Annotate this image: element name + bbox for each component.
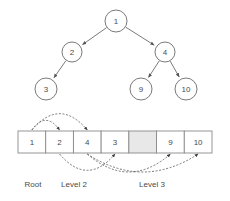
tree-node-2: 2 (62, 42, 82, 62)
captions-group: RootLevel 2Level 3 (25, 180, 166, 189)
tree-node-9: 9 (130, 78, 152, 100)
caption-level-3: Level 3 (139, 180, 165, 189)
diagram-canvas: 1243910 1243910 RootLevel 2Level 3 (0, 0, 230, 201)
tree-node-label: 10 (182, 85, 191, 94)
tree-edge-root-to-n2 (82, 28, 106, 45)
tree-array-diagram: 1243910 1243910 RootLevel 2Level 3 (0, 0, 230, 201)
tree-node-label: 2 (70, 48, 75, 57)
tree-node-label: 3 (44, 85, 49, 94)
tree-node-1: 1 (105, 10, 127, 32)
tree-edge-n4-to-n9 (149, 61, 160, 78)
tree-node-10: 10 (175, 78, 197, 100)
caption-level-2: Level 2 (61, 180, 87, 189)
tree-edge-root-to-n4 (126, 27, 154, 45)
arc-1-to-2 (32, 120, 60, 130)
array-cell-label-3: 3 (113, 138, 118, 147)
caption-root: Root (25, 180, 43, 189)
array-cell-label-0: 1 (30, 138, 35, 147)
tree-edge-n2-to-n3 (54, 61, 66, 78)
tree-node-4: 4 (155, 42, 175, 62)
array-cell-label-2: 4 (85, 138, 90, 147)
tree-node-label: 1 (114, 17, 119, 26)
arc-2-to-3 (60, 154, 115, 170)
array-cell-label-5: 9 (168, 138, 173, 147)
tree-edge-n4-to-n10 (170, 61, 179, 77)
arc-4-to-10 (87, 154, 198, 172)
arc-4-to-9 (87, 154, 170, 172)
arc-1-to-4 (32, 114, 87, 130)
tree-nodes-group: 1243910 (35, 10, 197, 100)
tree-node-label: 4 (163, 48, 168, 57)
array-group: 1243910 (18, 131, 212, 153)
array-cell-label-6: 10 (194, 138, 203, 147)
tree-node-label: 9 (139, 85, 144, 94)
array-cell-4 (129, 131, 157, 153)
tree-node-3: 3 (35, 78, 57, 100)
array-cell-label-1: 2 (57, 138, 62, 147)
